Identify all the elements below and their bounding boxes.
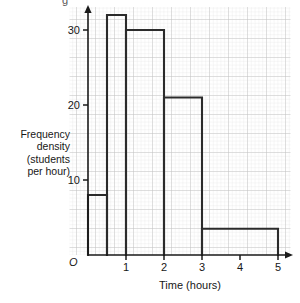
x-tick-label-3: 3: [194, 261, 210, 273]
x-tick-label-1: 1: [118, 261, 134, 273]
origin-label: O: [69, 256, 78, 268]
y-axis-label: Frequency density (students per hour): [0, 128, 70, 178]
histogram-figure: 10 20 30 1 2 3 4 5 O Frequency density (…: [0, 0, 300, 303]
x-axis-label: Time (hours): [120, 279, 260, 291]
y-tick-label-30: 30: [56, 24, 80, 36]
y-axis-label-line-1: Frequency: [0, 128, 70, 140]
y-axis-label-line-3: (students: [0, 153, 70, 165]
y-axis-label-line-4: per hour): [0, 165, 70, 177]
x-tick-label-4: 4: [232, 261, 248, 273]
grid-background: [70, 7, 291, 255]
y-axis-label-line-2: density: [0, 140, 70, 152]
x-tick-label-5: 5: [270, 261, 286, 273]
y-tick-label-20: 20: [56, 99, 80, 111]
cropped-text-fragment: g: [62, 0, 68, 6]
x-tick-label-2: 2: [156, 261, 172, 273]
